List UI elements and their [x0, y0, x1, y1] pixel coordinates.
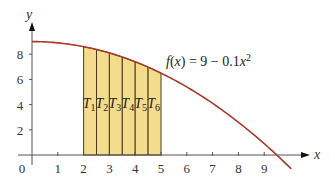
x-tick-label: 2 [80, 161, 87, 176]
function-curve [32, 42, 291, 169]
x-tick-label: 8 [235, 161, 242, 176]
y-tick-label: 2 [17, 123, 24, 138]
function-label: f(x) = 9 − 0.1x2 [166, 52, 251, 70]
func-rest: ) = 9 − 0.1 [181, 54, 240, 70]
trapezoid-rule-chart: 01234567892468 T1T2T3T4T5T6 y x f(x) = 9… [0, 0, 335, 185]
y-axis-arrow-icon [29, 22, 35, 31]
func-exponent: 2 [246, 52, 251, 63]
x-tick-label: 9 [261, 161, 268, 176]
y-tick-label: 4 [17, 98, 24, 113]
x-tick-label: 0 [19, 161, 26, 176]
y-axis-label: y [24, 7, 33, 22]
x-tick-label: 3 [106, 161, 113, 176]
x-axis-arrow-icon [301, 152, 310, 158]
x-tick-label: 7 [209, 161, 216, 176]
x-tick-label: 1 [55, 161, 62, 176]
y-tick-label: 6 [17, 72, 24, 87]
x-tick-label: 6 [184, 161, 191, 176]
y-tick-label: 8 [17, 47, 24, 62]
x-axis-label: x [313, 147, 321, 162]
x-tick-label: 4 [132, 161, 139, 176]
x-tick-label: 5 [158, 161, 165, 176]
